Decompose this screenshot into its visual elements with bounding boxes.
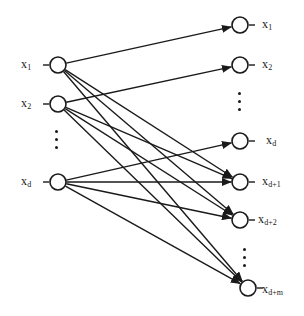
output-ellipsis-lower-dot: [243, 248, 246, 251]
output-ellipsis-upper-dot: [238, 108, 241, 111]
label-out-d1: xd+1: [262, 175, 281, 189]
label-out-d-subscript: d: [272, 139, 276, 148]
input-ellipsis: [55, 130, 58, 154]
label-in-1-subscript: 1: [27, 63, 31, 72]
edge-in1-out1: [66, 27, 231, 63]
edge-in2-outd1: [66, 107, 232, 178]
node-link-diagram: [0, 0, 304, 316]
label-in-d-subscript: d: [27, 180, 31, 189]
label-out-dm-subscript: d+m: [268, 288, 283, 297]
label-out-d2: xd+2: [258, 213, 277, 227]
node-stub-layer: [43, 25, 263, 288]
edge-in2-outdm: [64, 110, 242, 282]
edge-in1-outdm: [64, 71, 243, 281]
input-ellipsis-dot: [55, 138, 58, 141]
label-in-2: x2: [21, 97, 31, 111]
node-out-dm[interactable]: [240, 280, 256, 296]
output-ellipsis-upper: [238, 92, 241, 116]
label-out-2: x2: [262, 58, 272, 72]
label-out-1: x1: [262, 18, 272, 32]
label-out-2-subscript: 2: [268, 63, 272, 72]
node-out-d2[interactable]: [232, 212, 248, 228]
edge-layer: [64, 27, 243, 284]
edge-in2-out2: [66, 67, 231, 102]
label-in-d: xd: [21, 175, 31, 189]
input-ellipsis-dot: [55, 146, 58, 149]
label-in-2-subscript: 2: [27, 102, 31, 111]
node-in-d[interactable]: [50, 174, 66, 190]
edge-ind-outd: [66, 143, 231, 180]
node-out-d1[interactable]: [232, 174, 248, 190]
output-ellipsis-lower: [243, 248, 246, 272]
node-out-d[interactable]: [232, 133, 248, 149]
label-out-1-subscript: 1: [268, 23, 272, 32]
output-ellipsis-lower-dot: [243, 256, 246, 259]
node-out-2[interactable]: [232, 57, 248, 73]
edge-ind-outdm: [65, 186, 240, 284]
output-ellipsis-lower-dot: [243, 264, 246, 267]
label-out-d: xd: [266, 134, 276, 148]
label-out-dm: xd+m: [262, 283, 283, 297]
node-out-1[interactable]: [232, 17, 248, 33]
figure-root: x1x2xdx1x2xdxd+1xd+2xd+m: [0, 0, 304, 316]
label-out-d2-subscript: d+2: [264, 218, 277, 227]
input-ellipsis-dot: [55, 130, 58, 133]
node-in-1[interactable]: [50, 57, 66, 73]
node-in-2[interactable]: [50, 96, 66, 112]
output-ellipsis-upper-dot: [238, 92, 241, 95]
label-out-d1-subscript: d+1: [268, 180, 281, 189]
node-layer: [50, 17, 256, 296]
output-ellipsis-upper-dot: [238, 100, 241, 103]
label-in-1: x1: [21, 58, 31, 72]
